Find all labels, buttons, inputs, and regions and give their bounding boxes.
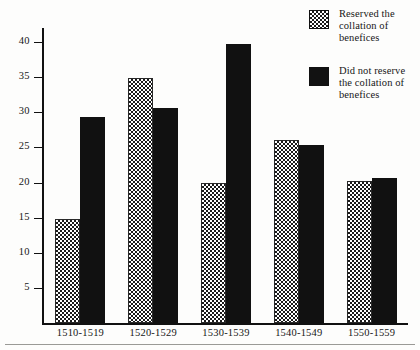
category-label-1520-1529: 1520-1529 bbox=[117, 327, 190, 338]
bar-1510-1519-series2 bbox=[80, 117, 105, 324]
y-tick-20: 20 bbox=[34, 183, 42, 184]
bar-group-1520-1529 bbox=[117, 28, 190, 323]
y-tick-label: 5 bbox=[24, 281, 30, 292]
bar-1540-1549-series1 bbox=[274, 140, 299, 323]
y-tick-40: 40 bbox=[34, 42, 42, 43]
category-label-1540-1549: 1540-1549 bbox=[262, 327, 335, 338]
bar-group-1540-1549 bbox=[262, 28, 335, 323]
category-label-1510-1519: 1510-1519 bbox=[44, 327, 117, 338]
bar-1510-1519-series1 bbox=[55, 219, 80, 323]
bar-1540-1549-series2 bbox=[299, 145, 324, 323]
y-tick-15: 15 bbox=[34, 218, 42, 219]
bar-group-1530-1539 bbox=[190, 28, 263, 323]
y-tick-label: 15 bbox=[19, 211, 30, 222]
y-tick-25: 25 bbox=[34, 147, 42, 148]
bar-chart-figure: Reserved the collation of benefices Did … bbox=[0, 0, 420, 350]
bar-1550-1559-series1 bbox=[347, 181, 372, 323]
bar-1520-1529-series2 bbox=[153, 108, 178, 323]
plot-area: 510152025303540 bbox=[42, 28, 408, 325]
y-tick-label: 35 bbox=[19, 70, 30, 81]
y-tick-label: 40 bbox=[19, 35, 30, 46]
x-axis-category-labels: 1510-15191520-15291530-15391540-15491550… bbox=[44, 327, 408, 338]
y-tick-5: 5 bbox=[34, 288, 42, 289]
bar-groups bbox=[44, 28, 408, 323]
page-divider-rule bbox=[5, 344, 415, 345]
bar-group-1510-1519 bbox=[44, 28, 117, 323]
bar-1550-1559-series2 bbox=[372, 178, 397, 323]
bar-group-1550-1559 bbox=[335, 28, 408, 323]
y-tick-label: 10 bbox=[19, 246, 30, 257]
bar-1520-1529-series1 bbox=[128, 78, 153, 323]
y-tick-30: 30 bbox=[34, 112, 42, 113]
y-tick-label: 30 bbox=[19, 105, 30, 116]
bar-1530-1539-series2 bbox=[226, 44, 251, 323]
dotted-swatch-icon bbox=[309, 10, 329, 29]
bar-1530-1539-series1 bbox=[201, 183, 226, 323]
category-label-1530-1539: 1530-1539 bbox=[190, 327, 263, 338]
category-label-1550-1559: 1550-1559 bbox=[335, 327, 408, 338]
x-axis-line bbox=[42, 323, 408, 325]
y-tick-label: 25 bbox=[19, 140, 30, 151]
y-tick-label: 20 bbox=[19, 176, 30, 187]
y-tick-10: 10 bbox=[34, 253, 42, 254]
y-tick-35: 35 bbox=[34, 77, 42, 78]
